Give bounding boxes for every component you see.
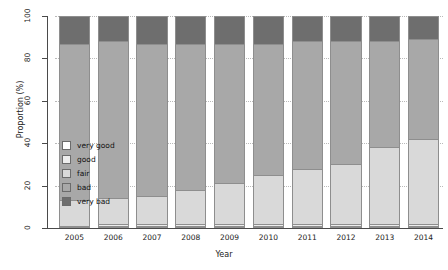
bar[interactable]: [136, 16, 167, 228]
bar-segment-good[interactable]: [369, 224, 400, 226]
bar-segment-fair[interactable]: [175, 190, 206, 224]
y-axis-tick-label: 0: [23, 215, 32, 241]
bar[interactable]: [175, 16, 206, 228]
legend-swatch-icon: [62, 141, 71, 150]
x-axis-tick-label: 2006: [94, 233, 133, 242]
bar-segment-very-good[interactable]: [136, 226, 167, 228]
bar-segment-good[interactable]: [292, 224, 323, 226]
bar-segment-very-good[interactable]: [214, 226, 245, 228]
y-axis-tick: [42, 143, 48, 144]
bar-segment-very-bad[interactable]: [98, 16, 129, 41]
legend: very goodgoodfairbadvery bad: [62, 138, 115, 208]
x-axis-tick-label: 2014: [404, 233, 443, 242]
legend-item[interactable]: very good: [62, 138, 115, 152]
bar-segment-bad[interactable]: [408, 39, 439, 139]
bar-segment-fair[interactable]: [292, 169, 323, 224]
x-axis-tick-label: 2012: [327, 233, 366, 242]
y-axis-tick: [42, 101, 48, 102]
bar-segment-very-good[interactable]: [59, 226, 90, 228]
bar-segment-very-bad[interactable]: [292, 16, 323, 41]
bar-segment-bad[interactable]: [369, 41, 400, 147]
bar[interactable]: [408, 16, 439, 228]
bar-segment-bad[interactable]: [330, 41, 361, 164]
bar[interactable]: [330, 16, 361, 228]
bar-segment-fair[interactable]: [369, 147, 400, 223]
bar-segment-very-bad[interactable]: [253, 16, 284, 44]
y-axis-tick-label: 60: [23, 87, 32, 113]
y-axis-tick: [42, 186, 48, 187]
x-axis-tick-label: 2011: [288, 233, 327, 242]
x-axis-tick-label: 2008: [171, 233, 210, 242]
bar-segment-good[interactable]: [214, 224, 245, 226]
bar-segment-bad[interactable]: [214, 44, 245, 184]
bar-segment-good[interactable]: [408, 224, 439, 226]
y-axis-tick-label: 80: [23, 45, 32, 71]
bar-segment-very-good[interactable]: [292, 226, 323, 228]
legend-swatch-icon: [62, 183, 71, 192]
legend-item[interactable]: very bad: [62, 194, 115, 208]
bar-segment-bad[interactable]: [292, 41, 323, 168]
x-axis-tick-label: 2007: [133, 233, 172, 242]
bar-segment-bad[interactable]: [253, 44, 284, 175]
y-axis-tick: [42, 228, 48, 229]
legend-item[interactable]: bad: [62, 180, 115, 194]
bar-segment-very-bad[interactable]: [214, 16, 245, 44]
bar[interactable]: [369, 16, 400, 228]
bar-segment-good[interactable]: [253, 224, 284, 226]
bar-segment-fair[interactable]: [330, 164, 361, 223]
legend-label: good: [77, 155, 96, 164]
bar[interactable]: [253, 16, 284, 228]
bar-segment-very-bad[interactable]: [59, 16, 90, 44]
bar-segment-very-bad[interactable]: [175, 16, 206, 44]
legend-label: very good: [77, 141, 115, 150]
bar-segment-fair[interactable]: [253, 175, 284, 224]
x-axis-tick-label: 2005: [55, 233, 94, 242]
x-axis-tick-label: 2013: [365, 233, 404, 242]
legend-label: bad: [77, 183, 91, 192]
bar-segment-good[interactable]: [330, 224, 361, 226]
legend-swatch-icon: [62, 169, 71, 178]
legend-item[interactable]: fair: [62, 166, 115, 180]
bar-segment-bad[interactable]: [175, 44, 206, 190]
x-axis-tick-label: 2009: [210, 233, 249, 242]
legend-label: fair: [77, 169, 89, 178]
bar-segment-very-good[interactable]: [98, 226, 129, 228]
bar-segment-fair[interactable]: [214, 183, 245, 223]
bar-segment-very-bad[interactable]: [369, 16, 400, 41]
bar-segment-very-bad[interactable]: [408, 16, 439, 39]
y-axis-spine: [47, 16, 48, 229]
y-axis-tick: [42, 58, 48, 59]
bar-segment-bad[interactable]: [136, 44, 167, 197]
bar[interactable]: [292, 16, 323, 228]
bar-segment-very-good[interactable]: [330, 226, 361, 228]
bar-segment-good[interactable]: [136, 224, 167, 226]
y-axis-tick-label: 20: [23, 172, 32, 198]
legend-label: very bad: [77, 197, 110, 206]
bar-segment-very-bad[interactable]: [136, 16, 167, 44]
x-axis-spine: [47, 228, 443, 229]
bar-segment-very-good[interactable]: [369, 226, 400, 228]
bar-segment-very-good[interactable]: [253, 226, 284, 228]
legend-swatch-icon: [62, 197, 71, 206]
bar-segment-very-bad[interactable]: [330, 16, 361, 41]
bar[interactable]: [214, 16, 245, 228]
bar-segment-very-good[interactable]: [408, 226, 439, 228]
bar-segment-good[interactable]: [175, 224, 206, 226]
x-axis-title: Year: [0, 250, 448, 259]
legend-swatch-icon: [62, 155, 71, 164]
bar-segment-fair[interactable]: [408, 139, 439, 224]
bar-segment-good[interactable]: [98, 224, 129, 226]
y-axis-tick: [42, 16, 48, 17]
x-axis-tick-label: 2010: [249, 233, 288, 242]
bar-segment-very-good[interactable]: [175, 226, 206, 228]
legend-item[interactable]: good: [62, 152, 115, 166]
stacked-bar-chart: Proportion (%) Year 020406080100 2005200…: [0, 0, 448, 270]
bar-segment-fair[interactable]: [136, 196, 167, 224]
y-axis-tick-label: 100: [23, 3, 32, 29]
y-axis-tick-label: 40: [23, 130, 32, 156]
